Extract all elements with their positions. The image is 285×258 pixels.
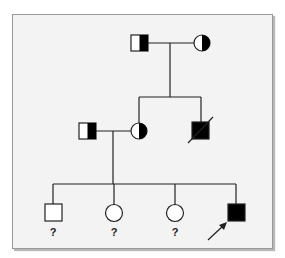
unknown-label-III-3: ? <box>167 226 183 238</box>
proband-arrow-icon <box>208 222 227 240</box>
individual-III-3-female-unknown <box>167 205 184 222</box>
pedigree-chart <box>0 0 285 258</box>
individual-III-2-female-unknown <box>106 205 123 222</box>
individual-III-4-affected-male-proband <box>228 204 245 221</box>
individual-II-1-male-carrier <box>79 123 96 139</box>
unknown-label-III-1: ? <box>45 226 61 238</box>
individual-I-1-male-carrier <box>131 35 148 51</box>
individual-II-2-female-carrier <box>131 123 147 139</box>
unknown-label-III-2: ? <box>106 226 122 238</box>
individual-III-1-male-unknown <box>45 204 62 221</box>
individual-I-2-female-carrier <box>194 35 210 51</box>
